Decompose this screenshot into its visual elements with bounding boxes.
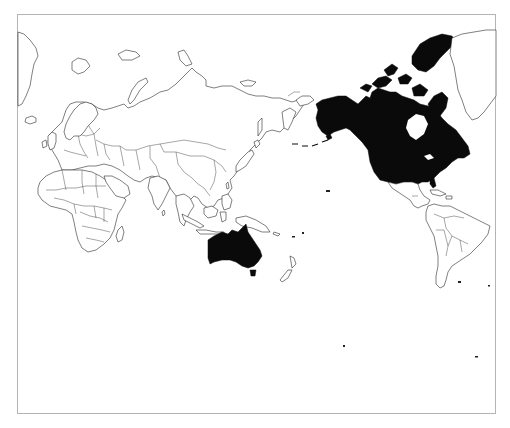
south-america (426, 204, 490, 288)
north-america-highlighted (316, 34, 470, 188)
south-georgia (488, 285, 490, 287)
solomon-islands (273, 232, 280, 236)
svalbard (72, 58, 90, 74)
cuba (430, 190, 446, 196)
aleutian-islands (292, 140, 328, 146)
hispaniola (446, 196, 452, 199)
iceland (25, 116, 36, 124)
hawaii-island (326, 190, 330, 192)
pacific-island (292, 236, 295, 238)
tasmania (250, 270, 256, 276)
greenland-left (18, 32, 38, 106)
greenland-right (450, 30, 496, 120)
philippines (222, 194, 232, 210)
pacific-island (343, 345, 345, 347)
fiji-island (302, 232, 304, 234)
india (148, 176, 170, 210)
franz-josef-land (118, 50, 140, 60)
central-america (388, 182, 430, 208)
sri-lanka (162, 210, 165, 216)
kamchatka (282, 108, 296, 130)
world-map (0, 0, 510, 428)
ireland (42, 140, 47, 148)
falkland-islands (458, 281, 461, 283)
pacific-island (475, 356, 478, 358)
chukotka (296, 96, 314, 106)
severnaya-zemlya (178, 50, 192, 66)
new-zealand (290, 256, 296, 268)
bering-coast (288, 92, 300, 96)
new-zealand-south (280, 270, 292, 282)
madagascar (116, 226, 124, 242)
new-siberian-islands (240, 80, 256, 86)
